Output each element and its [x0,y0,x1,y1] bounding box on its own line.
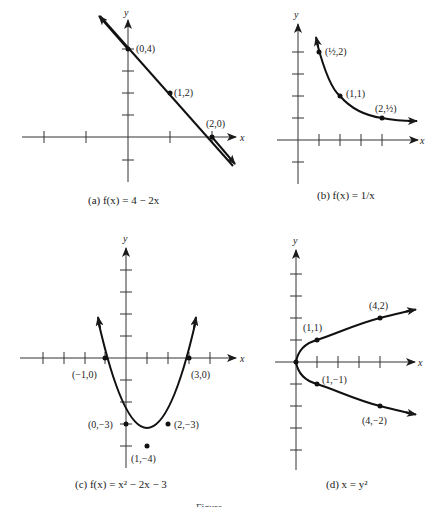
point-label: (−1,0) [72,369,97,381]
point-label: (4,−2) [362,415,387,427]
point-label: (4,2) [369,300,388,312]
point-4-2 [378,316,383,321]
caption-a: (a) f(x) = 4 − 2x [88,194,160,207]
point-label: (0,−3) [88,419,113,431]
panel-a: x y (0,4) (1,2) (2,0) (a) f(x) = 4 − 2x [22,7,245,207]
point-label: (1,1) [346,88,365,100]
x-axis-label: x [239,353,245,364]
figure-label: Figure [196,503,222,507]
curve-arrow-lower [406,413,416,415]
x-axis-label: x [417,357,423,368]
point-label: (2,0) [206,118,225,130]
point-4-neg2 [378,404,383,409]
panel-b: x y (½,2) (1,1) (2,½) (b) f(x) = 1/x [277,9,425,202]
caption-c: (c) f(x) = x² − 2x − 3 [75,478,167,491]
y-axis-label: y [293,9,299,20]
caption-b: (b) f(x) = 1/x [317,189,375,202]
point-label: (1,−1) [322,374,347,386]
point-label: (2,½) [375,103,397,115]
point-1-1 [315,338,320,343]
point-2-0 [210,135,215,140]
point-1-neg1 [315,382,320,387]
parabola-curve [98,320,196,428]
point-1-1 [338,94,343,99]
figure-canvas: x y (0,4) (1,2) (2,0) (a) f(x) = 4 − 2x [0,0,433,507]
point-origin [294,360,299,365]
curve-arrow-end [194,317,196,328]
y-axis-label: y [292,235,298,246]
caption-d: (d) x = y² [326,478,368,491]
point-label: (1,2) [174,87,193,99]
curve-arrow-start [99,16,128,49]
x-axis-label: x [239,132,245,143]
point-1-2 [168,91,173,96]
point-label: (½,2) [325,46,347,58]
curve-arrow-end [212,137,235,164]
point-label: (2,−3) [174,419,199,431]
curve-arrow-start [98,317,100,328]
point-label: (1,1) [303,322,322,334]
point-label: (3,0) [191,369,210,381]
curve-arrow-start [316,37,318,46]
point-label: (1,−4) [131,453,156,465]
y-axis-label: y [123,7,129,18]
point-label: (0,4) [136,43,155,55]
point-2-neg3 [166,422,171,427]
y-axis-label: y [122,233,128,244]
point-3-0 [187,356,192,361]
point-2-half [380,116,385,121]
point-neg1-0 [103,356,108,361]
curve-arrow-upper [406,310,416,312]
panel-c: x y (−1,0) (3,0) (0,−3) (2,−3) (1,−4) (c… [20,233,245,491]
panel-d: x y (1,1) (4,2) (1,−1) (4,−2) (d) x = y² [275,235,423,491]
x-axis-label: x [419,135,425,146]
point-0-4 [126,47,131,52]
upper-branch-curve [296,310,414,362]
point-half-2 [317,50,322,55]
point-0-neg3 [124,422,129,427]
lower-branch-curve [296,362,414,414]
point-1-neg4 [145,444,150,449]
